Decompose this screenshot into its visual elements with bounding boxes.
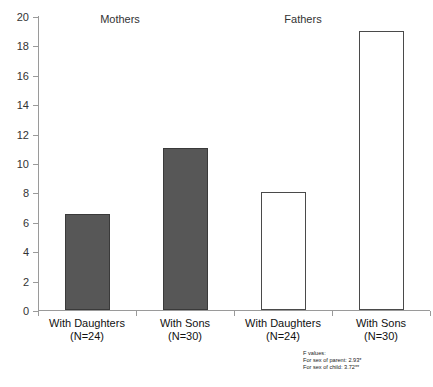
x-tick-3 — [430, 311, 431, 316]
category-label-line2: (N=30) — [332, 330, 430, 343]
y-tick-label: 10 — [17, 158, 29, 170]
f-values-line-1: F values: — [303, 350, 361, 357]
y-tick-mark — [33, 135, 38, 136]
x-tick-2 — [332, 311, 333, 316]
category-label-0: With Daughters(N=24) — [38, 317, 136, 343]
category-label-line1: With Sons — [160, 317, 210, 329]
y-tick-mark — [33, 282, 38, 283]
bar-chart: Mothers Fathers 02468101214161820 With D… — [0, 0, 433, 387]
x-tick-0 — [136, 311, 137, 316]
y-tick-mark — [33, 46, 38, 47]
category-label-line1: With Daughters — [49, 317, 125, 329]
x-tick-origin — [38, 311, 39, 316]
y-tick-mark — [33, 193, 38, 194]
y-tick-mark — [33, 76, 38, 77]
bar-3 — [359, 31, 404, 310]
y-tick-label: 12 — [17, 129, 29, 141]
x-tick-1 — [234, 311, 235, 316]
y-tick-mark — [33, 164, 38, 165]
y-axis-line — [38, 16, 39, 311]
y-tick-label: 2 — [23, 276, 29, 288]
y-tick-label: 20 — [17, 11, 29, 23]
category-label-3: With Sons(N=30) — [332, 317, 430, 343]
plot-area: 02468101214161820 — [38, 16, 430, 311]
category-label-1: With Sons(N=30) — [136, 317, 234, 343]
category-label-line1: With Daughters — [245, 317, 321, 329]
category-label-line1: With Sons — [356, 317, 406, 329]
category-label-line2: (N=30) — [136, 330, 234, 343]
bar-2 — [261, 192, 306, 310]
y-tick-mark — [33, 252, 38, 253]
y-tick-label: 14 — [17, 99, 29, 111]
category-label-line2: (N=24) — [234, 330, 332, 343]
y-tick-mark — [33, 17, 38, 18]
y-tick-mark — [33, 105, 38, 106]
f-values-line-2: For sex of parent: 2.93* — [303, 357, 361, 364]
category-label-line2: (N=24) — [38, 330, 136, 343]
y-tick-label: 0 — [23, 305, 29, 317]
y-tick-label: 4 — [23, 246, 29, 258]
y-tick-label: 8 — [23, 187, 29, 199]
category-label-2: With Daughters(N=24) — [234, 317, 332, 343]
y-tick-mark — [33, 223, 38, 224]
f-values-line-3: For sex of child: 3.72** — [303, 364, 361, 371]
y-tick-label: 16 — [17, 70, 29, 82]
y-tick-label: 6 — [23, 217, 29, 229]
f-values-annotation: F values: For sex of parent: 2.93* For s… — [303, 350, 361, 372]
y-tick-label: 18 — [17, 40, 29, 52]
bar-1 — [163, 148, 208, 310]
bar-0 — [65, 214, 110, 310]
